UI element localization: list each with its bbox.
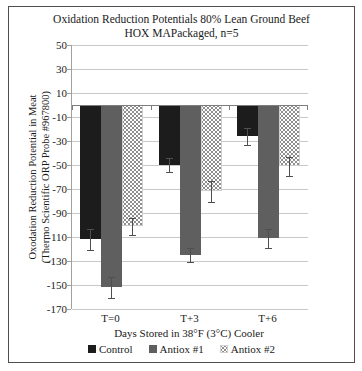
y-tick-label: -150	[33, 279, 67, 292]
x-tick-label-t-0: T=0	[71, 312, 150, 325]
y-axis-tick	[66, 141, 71, 142]
error-bar-cap	[286, 157, 293, 158]
y-tick-label: 50	[33, 39, 67, 52]
error-bar-cap	[108, 298, 115, 299]
chart-title-line1: Oxidation Reduction Potentials 80% Lean …	[9, 12, 354, 26]
category-axis-tick	[229, 105, 230, 110]
y-axis-tick	[66, 93, 71, 94]
y-tick-label: -10	[33, 111, 67, 124]
legend: ControlAntiox #1Antiox #2	[9, 343, 354, 355]
chart-frame: Oxidation Reduction Potentials 80% Lean …	[8, 6, 355, 363]
error-bar	[289, 157, 290, 176]
bar-antiox-1-t-3	[180, 105, 201, 255]
error-bar	[190, 248, 191, 262]
error-bar-cap	[208, 202, 215, 203]
y-tick-label: -50	[33, 159, 67, 172]
legend-item-control: Control	[88, 343, 133, 355]
bar-antiox-1-t-0	[101, 105, 122, 287]
error-bar-cap	[166, 158, 173, 159]
error-bar-cap	[87, 229, 94, 230]
error-bar	[90, 229, 91, 251]
chart-title-line2: HOX MAPackaged, n=5	[9, 26, 354, 40]
error-bar-cap	[129, 218, 136, 219]
category-axis	[72, 105, 308, 106]
error-bar-cap	[187, 262, 194, 263]
y-axis-tick	[66, 45, 71, 46]
y-tick-label: 30	[33, 63, 67, 76]
bar-antiox-1-t-6	[258, 105, 279, 238]
x-tick-label-t-6: T+6	[228, 312, 307, 325]
legend-label-antiox-2: Antiox #2	[231, 343, 275, 355]
gridline	[72, 69, 308, 70]
error-bar	[132, 218, 133, 235]
chart-title: Oxidation Reduction Potentials 80% Lean …	[9, 12, 354, 40]
error-bar	[169, 158, 170, 172]
bar-antiox-2-t-0	[122, 105, 143, 226]
x-tick-label-t-3: T+3	[150, 312, 229, 325]
y-tick-label: -30	[33, 135, 67, 148]
error-bar-cap	[187, 248, 194, 249]
legend-label-antiox-1: Antiox #1	[160, 343, 204, 355]
error-bar-cap	[265, 248, 272, 249]
bar-antiox-2-t-3	[201, 105, 222, 191]
legend-swatch-control	[88, 345, 96, 353]
y-tick-label: -90	[33, 207, 67, 220]
category-axis-tick	[151, 105, 152, 110]
y-axis-tick	[66, 237, 71, 238]
error-bar-cap	[244, 128, 251, 129]
error-bar-cap	[286, 176, 293, 177]
error-bar	[247, 128, 248, 145]
error-bar-cap	[166, 172, 173, 173]
y-tick-label: -170	[33, 303, 67, 316]
error-bar	[111, 277, 112, 299]
gridline	[72, 309, 308, 310]
error-bar-cap	[208, 181, 215, 182]
y-axis-tick	[66, 285, 71, 286]
error-bar-cap	[129, 235, 136, 236]
legend-label-control: Control	[99, 343, 133, 355]
y-tick-label: 10	[33, 87, 67, 100]
y-axis-tick	[66, 213, 71, 214]
y-axis-tick	[66, 261, 71, 262]
y-axis-tick	[66, 189, 71, 190]
y-axis-tick	[66, 165, 71, 166]
category-axis-tick	[72, 105, 73, 110]
error-bar-cap	[265, 229, 272, 230]
y-axis-tick	[66, 117, 71, 118]
gridline	[72, 45, 308, 46]
legend-swatch-antiox-1	[149, 345, 157, 353]
error-bar	[268, 229, 269, 248]
y-axis-tick-labels: 503010-10-30-50-70-90-110-130-150-170	[33, 45, 67, 309]
legend-item-antiox-1: Antiox #1	[149, 343, 204, 355]
error-bar	[211, 181, 212, 203]
y-tick-label: -110	[33, 231, 67, 244]
y-axis-tick	[66, 309, 71, 310]
y-tick-label: -70	[33, 183, 67, 196]
y-axis-tick	[66, 69, 71, 70]
screenshot-root: { "chart_data": { "type": "bar", "title_…	[0, 0, 362, 371]
error-bar-cap	[244, 145, 251, 146]
legend-item-antiox-2: Antiox #2	[220, 343, 275, 355]
error-bar-cap	[108, 277, 115, 278]
error-bar-cap	[87, 250, 94, 251]
y-tick-label: -130	[33, 255, 67, 268]
plot-area	[71, 45, 308, 309]
bar-control-t-0	[80, 105, 101, 239]
category-axis-tick	[307, 105, 308, 110]
gridline	[72, 93, 308, 94]
x-axis-tick-labels: T=0T+3T+6	[71, 312, 307, 326]
legend-swatch-antiox-2	[220, 345, 228, 353]
bar-control-t-3	[159, 105, 180, 165]
x-axis-title: Days Stored in 38°F (3°C) Cooler	[71, 327, 307, 340]
